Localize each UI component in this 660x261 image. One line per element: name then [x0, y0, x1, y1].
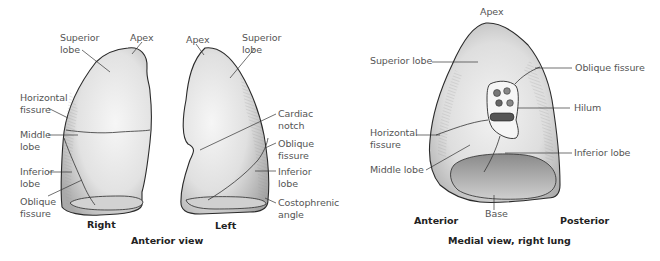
caption-anterior-view: Anterior view — [131, 235, 203, 246]
label-line: fissure — [370, 139, 418, 151]
label-medial-oblique-fissure: Oblique fissure — [575, 62, 645, 74]
label-medial-hilum: Hilum — [574, 102, 601, 114]
caption-anterior: Anterior — [414, 215, 458, 226]
label-line: Middle — [20, 129, 51, 141]
label-left-superior-lobe: Superior lobe — [242, 32, 281, 56]
label-left-cardiac-notch: Cardiac notch — [278, 108, 313, 132]
label-left-costophrenic-angle: Costophrenic angle — [278, 197, 339, 221]
label-right-middle-lobe: Middle lobe — [20, 129, 51, 153]
caption-right: Right — [87, 219, 116, 230]
label-line: Costophrenic — [278, 197, 339, 209]
label-line: notch — [278, 120, 313, 132]
label-line: lobe — [60, 44, 99, 56]
label-right-horizontal-fissure: Horizontal fissure — [20, 92, 68, 116]
label-medial-horizontal-fissure: Horizontal fissure — [370, 127, 418, 151]
right-lung-medial — [429, 23, 560, 203]
label-right-oblique-fissure: Oblique fissure — [20, 196, 56, 220]
label-line: Oblique — [278, 138, 314, 150]
label-line: Superior — [242, 32, 281, 44]
label-line: Horizontal — [370, 127, 418, 139]
label-line: fissure — [278, 150, 314, 162]
label-medial-superior-lobe: Superior lobe — [370, 55, 432, 67]
label-medial-inferior-lobe: Inferior lobe — [574, 147, 630, 159]
label-left-apex: Apex — [186, 34, 209, 46]
label-line: lobe — [242, 44, 281, 56]
left-lung-anterior — [181, 48, 269, 214]
label-right-apex: Apex — [130, 32, 153, 44]
label-medial-middle-lobe: Middle lobe — [370, 164, 424, 176]
label-line: Horizontal — [20, 92, 68, 104]
label-left-inferior-lobe: Inferior lobe — [278, 166, 311, 190]
label-right-superior-lobe: Superior lobe — [60, 32, 99, 56]
label-line: Superior — [60, 32, 99, 44]
caption-posterior: Posterior — [560, 215, 609, 226]
label-line: lobe — [278, 178, 311, 190]
label-medial-base: Base — [485, 208, 508, 220]
label-line: fissure — [20, 104, 68, 116]
label-left-oblique-fissure: Oblique fissure — [278, 138, 314, 162]
right-lung-anterior — [61, 48, 151, 215]
label-line: Oblique — [20, 196, 56, 208]
label-right-inferior-lobe: Inferior lobe — [20, 166, 53, 190]
label-line: Cardiac — [278, 108, 313, 120]
label-medial-apex: Apex — [480, 6, 503, 18]
caption-left: Left — [215, 220, 236, 231]
label-line: lobe — [20, 141, 51, 153]
caption-medial-view: Medial view, right lung — [448, 235, 571, 246]
label-line: angle — [278, 209, 339, 221]
label-line: Inferior — [278, 166, 311, 178]
label-line: lobe — [20, 178, 53, 190]
label-line: Inferior — [20, 166, 53, 178]
label-line: fissure — [20, 208, 56, 220]
